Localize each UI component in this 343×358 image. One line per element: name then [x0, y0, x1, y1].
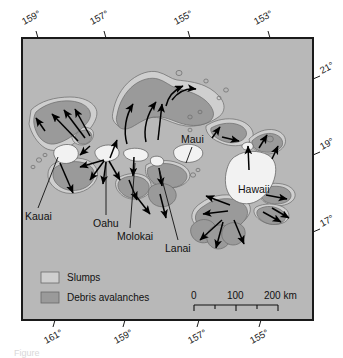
- land-oahu: [95, 145, 119, 161]
- debris-kauai-south: [53, 162, 94, 191]
- island-label-lanai: Lanai: [165, 242, 191, 254]
- figure-caption-partial: Figure: [14, 348, 40, 358]
- island-label-kauai: Kauai: [25, 210, 52, 222]
- land-kauai: [54, 144, 79, 163]
- island-label-oahu: Oahu: [93, 217, 119, 229]
- island-label-molokai: Molokai: [117, 230, 153, 242]
- island-label-hawaii: Hawaii: [238, 183, 270, 195]
- legend-swatch-slumps: [41, 272, 59, 283]
- legend-label-debris: Debris avalanches: [67, 292, 149, 303]
- figure-root: 159° 157° 155° 153° 21° 19° 17° 161° 159…: [0, 0, 343, 358]
- island-label-maui: Maui: [181, 133, 204, 145]
- land-lanai: [150, 156, 163, 166]
- land-maui: [174, 144, 203, 162]
- arrow-hawaii-n1: [248, 146, 249, 170]
- legend-label-slumps: Slumps: [67, 272, 100, 283]
- legend-swatch-debris: [41, 292, 59, 303]
- scale-label-100: 100: [227, 290, 244, 301]
- scale-label-200: 200 km: [264, 290, 297, 301]
- debris-sw-finger-3: [222, 223, 245, 245]
- scale-label-0: 0: [191, 290, 197, 301]
- hawaii-landslide-map: 159° 157° 155° 153° 21° 19° 17° 161° 159…: [0, 0, 343, 358]
